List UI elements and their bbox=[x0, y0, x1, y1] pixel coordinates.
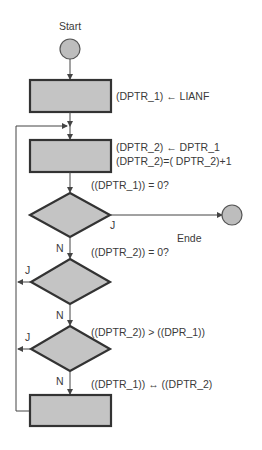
decision-3-yes-label: J bbox=[25, 331, 30, 343]
end-terminal bbox=[222, 205, 242, 225]
decision-1-condition: ((DPTR_1)) = 0? bbox=[91, 179, 169, 191]
process-box-3 bbox=[30, 395, 111, 426]
decision-3-no-label: N bbox=[56, 375, 64, 387]
decision-diamond-2 bbox=[31, 259, 110, 304]
decision-2-condition: ((DPTR_2)) = 0? bbox=[91, 246, 169, 258]
start-terminal bbox=[60, 39, 80, 59]
decision-1-no-label: N bbox=[56, 242, 64, 254]
end-label: Ende bbox=[177, 232, 202, 244]
box2-text-line1: (DPTR_2) ← DPTR_1 bbox=[116, 141, 220, 153]
start-label: Start bbox=[59, 20, 81, 32]
decision-3-condition: ((DPTR_2)) > ((DPR_1)) bbox=[91, 326, 205, 338]
decision-1-yes-label: J bbox=[110, 219, 115, 231]
decision-diamond-1 bbox=[30, 193, 110, 237]
box2-text-line2: (DPTR_2)=( DPTR_2)+1 bbox=[116, 155, 232, 167]
process-box-1 bbox=[30, 80, 111, 112]
decision-2-no-label: N bbox=[56, 309, 64, 321]
box3-text: ((DPTR_1)) ↔ ((DPTR_2) bbox=[91, 378, 212, 390]
flowchart: Start (DPTR_1) ← LIANF (DPTR_2) ← DPTR_1… bbox=[0, 0, 262, 450]
box1-text: (DPTR_1) ← LIANF bbox=[116, 90, 209, 102]
decision-2-yes-label: J bbox=[25, 264, 30, 276]
process-box-2 bbox=[30, 140, 111, 172]
